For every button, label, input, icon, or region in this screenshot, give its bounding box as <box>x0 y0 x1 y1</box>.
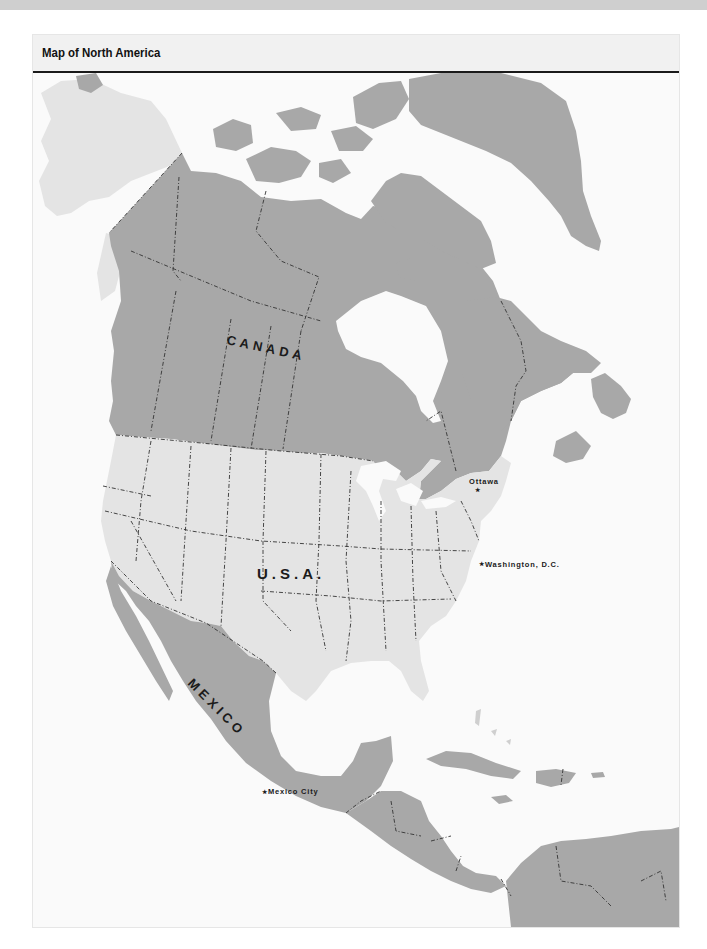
panel-header: Map of North America <box>33 35 679 71</box>
north-america-map: CANADA U.S.A. MEXICO ★ Ottawa ★ Washingt… <box>33 73 679 927</box>
capital-label-washington: Washington, D.C. <box>485 560 560 569</box>
capital-label-mexico-city: Mexico City <box>268 787 319 796</box>
page-title: Map of North America <box>42 45 160 60</box>
puerto-rico <box>591 772 605 778</box>
capital-label-ottawa: Ottawa <box>469 477 499 486</box>
map-panel: Map of North America <box>32 34 680 928</box>
country-label-usa: U.S.A. <box>257 565 325 582</box>
top-strip <box>0 0 707 10</box>
